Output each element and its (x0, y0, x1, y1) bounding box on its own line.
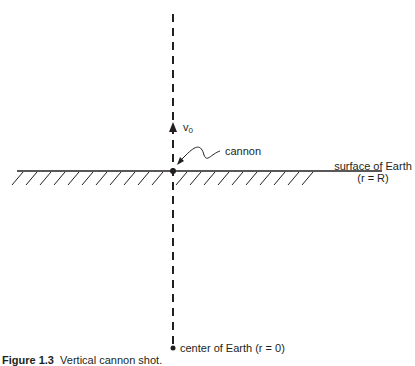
caption-number: Figure 1.3 (2, 354, 54, 366)
cannon-label: cannon (225, 145, 261, 157)
surface-label-line2: (r = R) (330, 172, 415, 184)
earth-center-dot (171, 346, 176, 351)
caption-text: Vertical cannon shot. (60, 354, 162, 366)
velocity-arrow-icon (169, 122, 177, 132)
cannon-pointer-squiggle (180, 147, 220, 161)
ground-hatching (12, 172, 313, 185)
velocity-label: v0 (183, 121, 193, 137)
center-label: center of Earth (r = 0) (180, 342, 285, 354)
figure-caption: Figure 1.3 Vertical cannon shot. (2, 354, 162, 366)
surface-label: surface of Earth (r = R) (330, 160, 415, 184)
cannon-dot (170, 168, 176, 174)
surface-label-line1: surface of Earth (330, 160, 415, 172)
velocity-subscript: 0 (189, 126, 193, 135)
